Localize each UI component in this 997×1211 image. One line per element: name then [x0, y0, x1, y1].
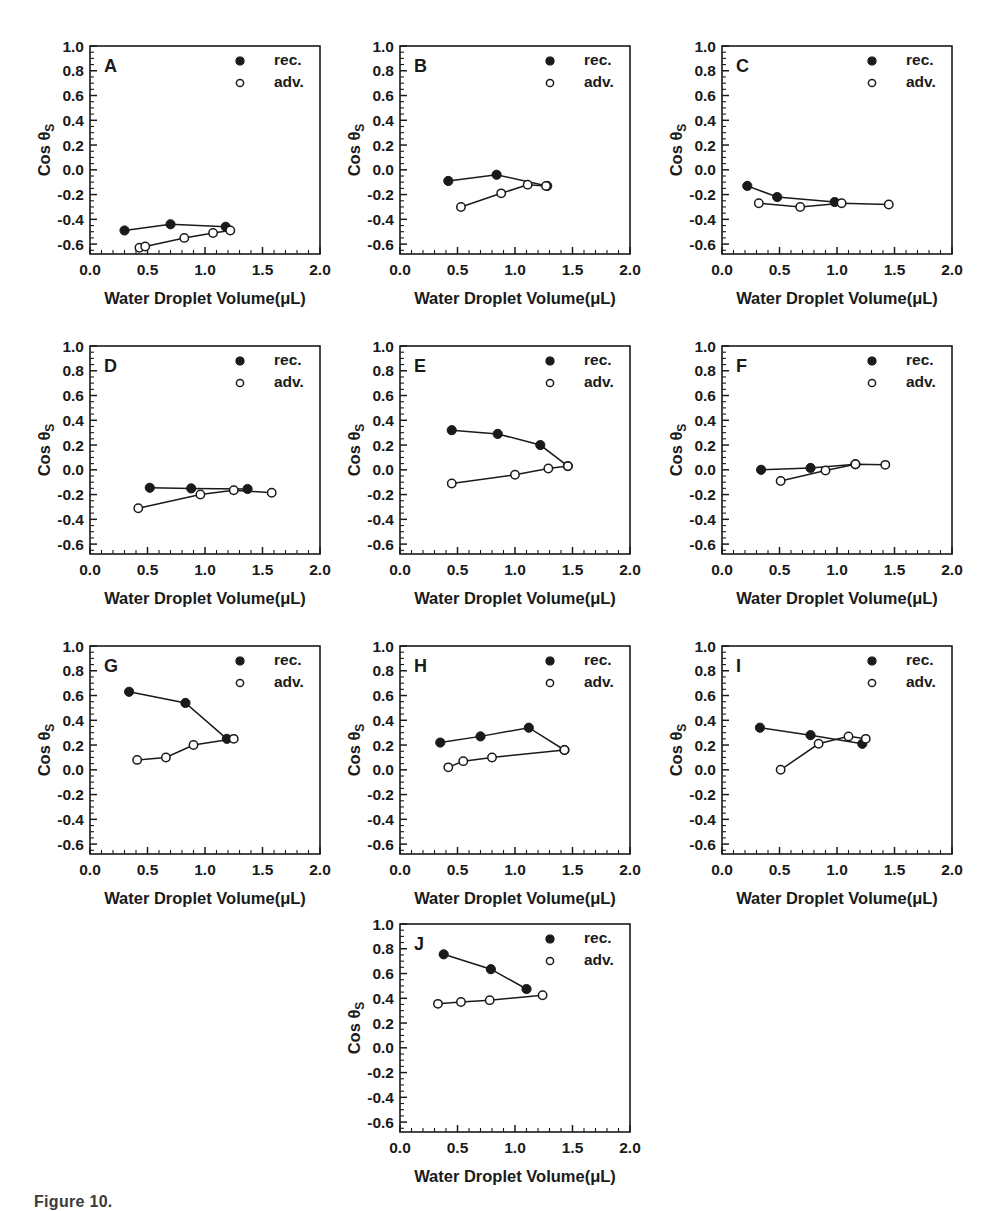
- svg-text:Cos θS: Cos θS: [667, 124, 689, 177]
- legend-marker-rec-icon: [546, 935, 554, 943]
- y-tick-label: 0.4: [694, 412, 716, 429]
- y-axis-title: Cos θS: [345, 424, 367, 477]
- data-point: [476, 732, 485, 741]
- legend-label-rec: rec.: [274, 351, 302, 368]
- x-tick-label: 1.5: [884, 561, 906, 578]
- y-tick-label: 0.0: [372, 461, 394, 478]
- y-tick-label: 0.0: [694, 761, 716, 778]
- data-point: [511, 471, 519, 479]
- data-point: [145, 483, 154, 492]
- x-tick-label: 1.5: [884, 861, 906, 878]
- y-tick-label: 1.0: [62, 638, 84, 655]
- y-tick-label: -0.6: [689, 536, 716, 553]
- y-tick-label: 0.6: [372, 965, 394, 982]
- data-point: [757, 465, 766, 474]
- x-axis-ticks: 0.00.51.01.52.0: [711, 247, 963, 278]
- y-tick-label: -0.6: [57, 536, 84, 553]
- y-tick-label: 0.6: [62, 87, 84, 104]
- y-tick-label: -0.6: [367, 836, 394, 853]
- legend-marker-rec-icon: [236, 657, 244, 665]
- data-point: [486, 965, 495, 974]
- x-tick-label: 1.5: [562, 261, 584, 278]
- series-rec: [125, 687, 232, 743]
- data-point: [821, 466, 829, 474]
- legend-label-adv: adv.: [906, 373, 936, 390]
- x-tick-label: 1.0: [194, 561, 216, 578]
- panel-label-c: C: [736, 56, 749, 76]
- y-tick-label: 0.2: [372, 737, 394, 754]
- series-adv: [448, 462, 573, 488]
- x-tick-label: 1.0: [504, 861, 526, 878]
- y-tick-label: -0.6: [689, 236, 716, 253]
- y-axis-title: Cos θS: [345, 1002, 367, 1055]
- y-tick-label: 0.0: [372, 161, 394, 178]
- svg-text:Cos θS: Cos θS: [667, 424, 689, 477]
- legend-marker-adv-icon: [546, 679, 553, 686]
- x-axis-title: Water Droplet Volume(μL): [104, 589, 306, 607]
- legend-label-adv: adv.: [584, 73, 614, 90]
- data-point: [743, 181, 752, 190]
- legend-marker-rec-icon: [868, 357, 876, 365]
- y-tick-label: -0.4: [57, 511, 84, 528]
- data-point: [844, 732, 852, 740]
- series-rec: [447, 426, 572, 471]
- legend: rec.adv.: [236, 51, 304, 90]
- y-tick-label: 0.2: [62, 437, 84, 454]
- data-point: [814, 740, 822, 748]
- y-tick-label: 0.2: [694, 437, 716, 454]
- y-axis-ticks: 1.00.80.60.40.20.0-0.2-0.4-0.6: [367, 638, 407, 853]
- x-tick-label: 0.5: [769, 861, 791, 878]
- data-point: [268, 489, 276, 497]
- svg-text:Cos θS: Cos θS: [35, 724, 57, 777]
- x-tick-label: 0.5: [447, 861, 469, 878]
- y-axis-title: Cos θS: [667, 424, 689, 477]
- y-tick-label: 1.0: [694, 338, 716, 355]
- series-line: [444, 954, 527, 989]
- y-tick-label: -0.2: [57, 786, 84, 803]
- panel-label-a: A: [104, 56, 117, 76]
- data-point: [444, 763, 452, 771]
- x-axis-title: Water Droplet Volume(μL): [414, 589, 616, 607]
- chart-panel-d: 0.00.51.01.52.01.00.80.60.40.20.0-0.2-0.…: [28, 322, 348, 622]
- y-tick-label: 0.2: [694, 737, 716, 754]
- x-tick-label: 2.0: [619, 561, 641, 578]
- data-point: [209, 229, 217, 237]
- y-tick-label: 1.0: [694, 38, 716, 55]
- legend-marker-rec-icon: [546, 57, 554, 65]
- panel-label-b: B: [414, 56, 427, 76]
- data-point: [436, 738, 445, 747]
- y-axis-title: Cos θS: [345, 124, 367, 177]
- data-point: [544, 464, 552, 472]
- panel-label-d: D: [104, 356, 117, 376]
- legend-label-adv: adv.: [274, 673, 304, 690]
- y-tick-label: 0.0: [694, 461, 716, 478]
- panel-label-h: H: [414, 656, 427, 676]
- legend-marker-adv-icon: [868, 679, 875, 686]
- y-tick-label: 0.8: [62, 362, 84, 379]
- y-tick-label: 0.0: [694, 161, 716, 178]
- x-axis-title: Water Droplet Volume(μL): [104, 289, 306, 307]
- y-tick-label: 0.8: [62, 662, 84, 679]
- x-axis-ticks: 0.00.51.01.52.0: [389, 247, 641, 278]
- y-tick-label: 0.4: [694, 712, 716, 729]
- y-tick-label: 0.0: [62, 761, 84, 778]
- series-rec: [444, 170, 552, 190]
- data-point: [230, 486, 238, 494]
- series-rec: [436, 723, 569, 754]
- y-tick-label: 0.4: [372, 712, 394, 729]
- data-point: [488, 753, 496, 761]
- y-axis-title: Cos θS: [35, 424, 57, 477]
- y-tick-label: -0.6: [57, 236, 84, 253]
- x-tick-label: 0.0: [711, 861, 733, 878]
- y-axis-title: Cos θS: [667, 124, 689, 177]
- x-tick-label: 1.5: [884, 261, 906, 278]
- data-point: [120, 226, 129, 235]
- data-point: [776, 766, 784, 774]
- x-axis-ticks: 0.00.51.01.52.0: [711, 547, 963, 578]
- legend: rec.adv.: [546, 351, 614, 390]
- legend-marker-rec-icon: [868, 57, 876, 65]
- series-line: [781, 736, 866, 769]
- y-axis-ticks: 1.00.80.60.40.20.0-0.2-0.4-0.6: [57, 638, 97, 853]
- x-tick-label: 0.0: [389, 861, 411, 878]
- legend-marker-adv-icon: [236, 79, 243, 86]
